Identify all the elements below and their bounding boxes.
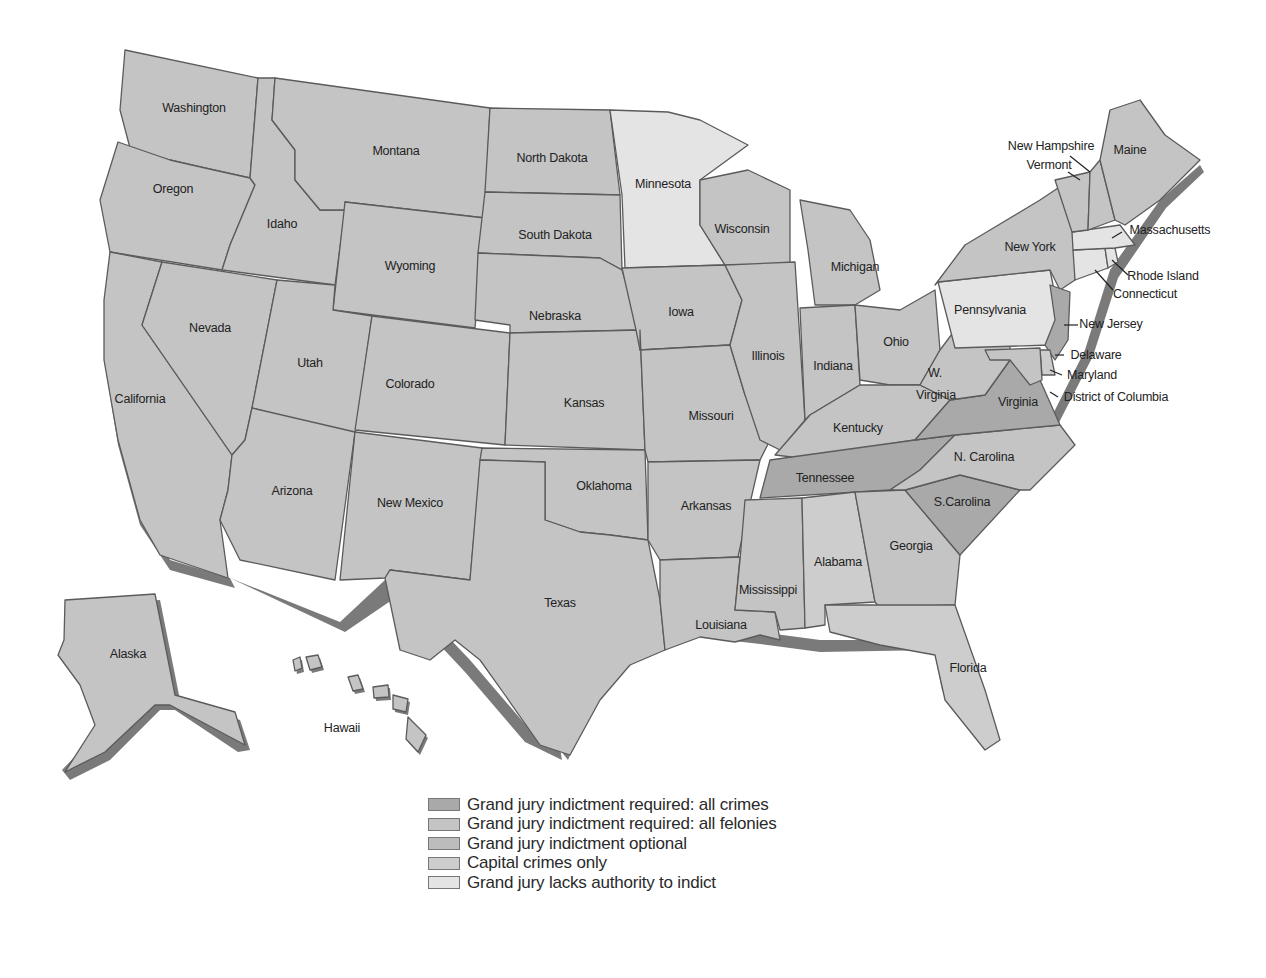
label-massachusetts: Massachusetts (1130, 223, 1211, 237)
legend-swatch (428, 798, 460, 811)
label-dc: District of Columbia (1064, 390, 1168, 404)
label-west-virginia-line2: Virginia (916, 388, 956, 402)
label-pennsylvania: Pennsylvania (954, 303, 1026, 317)
state-mississippi[interactable] (735, 498, 805, 630)
label-mississippi: Mississippi (739, 583, 797, 597)
label-north-dakota: North Dakota (516, 151, 587, 165)
legend-label: Grand jury indictment optional (467, 834, 687, 854)
state-maine[interactable] (1100, 100, 1200, 225)
legend-swatch (428, 818, 460, 831)
label-utah: Utah (297, 356, 323, 370)
label-hawaii: Hawaii (324, 721, 360, 735)
state-hawaii[interactable] (293, 655, 428, 755)
label-michigan: Michigan (831, 260, 879, 274)
label-arizona: Arizona (272, 484, 313, 498)
label-washington: Washington (162, 101, 226, 115)
legend-swatch (428, 837, 460, 850)
legend-label: Grand jury indictment required: all crim… (467, 795, 769, 815)
label-new-jersey: New Jersey (1079, 317, 1142, 331)
label-alabama: Alabama (814, 555, 862, 569)
label-tennessee: Tennessee (796, 471, 855, 485)
label-new-mexico: New Mexico (377, 496, 443, 510)
label-nebraska: Nebraska (529, 309, 581, 323)
label-georgia: Georgia (889, 539, 932, 553)
state-connecticut[interactable] (1073, 248, 1108, 280)
label-indiana: Indiana (813, 359, 853, 373)
state-new-york[interactable] (935, 180, 1075, 290)
label-colorado: Colorado (385, 377, 434, 391)
label-kentucky: Kentucky (833, 421, 883, 435)
legend-label: Grand jury indictment required: all felo… (467, 814, 777, 834)
label-kansas: Kansas (564, 396, 605, 410)
label-idaho: Idaho (267, 217, 297, 231)
legend-item-capital-only: Capital crimes only (428, 854, 777, 874)
legend-item-all-crimes: Grand jury indictment required: all crim… (428, 795, 777, 815)
label-california: California (115, 392, 166, 406)
label-florida: Florida (950, 661, 987, 675)
label-virginia: Virginia (998, 395, 1038, 409)
label-connecticut: Connecticut (1113, 287, 1177, 301)
state-florida[interactable] (825, 605, 1000, 750)
label-alaska: Alaska (110, 647, 146, 661)
label-montana: Montana (372, 144, 419, 158)
label-nevada: Nevada (189, 321, 231, 335)
label-texas: Texas (544, 596, 576, 610)
legend-item-optional: Grand jury indictment optional (428, 834, 777, 854)
legend-swatch (428, 857, 460, 870)
us-grand-jury-map: Washington Oregon California Idaho Nevad… (0, 0, 1266, 978)
label-ohio: Ohio (883, 335, 909, 349)
legend-swatch (428, 876, 460, 889)
label-wyoming: Wyoming (385, 259, 436, 273)
label-rhode-island: Rhode Island (1127, 269, 1198, 283)
legend-item-no-authority: Grand jury lacks authority to indict (428, 873, 777, 893)
label-missouri: Missouri (689, 409, 734, 423)
legend-item-all-felonies: Grand jury indictment required: all felo… (428, 815, 777, 835)
label-vermont: Vermont (1026, 158, 1071, 172)
state-kansas[interactable] (505, 330, 645, 450)
label-west-virginia-line1: W. (928, 366, 942, 380)
legend-label: Grand jury lacks authority to indict (467, 873, 716, 893)
label-new-york: New York (1004, 240, 1055, 254)
label-south-carolina: S.Carolina (934, 495, 990, 509)
legend: Grand jury indictment required: all crim… (428, 795, 777, 893)
label-maryland: Maryland (1067, 368, 1117, 382)
label-north-carolina: N. Carolina (954, 450, 1014, 464)
label-illinois: Illinois (751, 349, 784, 363)
label-oregon: Oregon (153, 182, 194, 196)
state-alaska[interactable] (58, 594, 245, 772)
label-new-hampshire: New Hampshire (1008, 139, 1094, 153)
label-wisconsin: Wisconsin (714, 222, 769, 236)
label-maine: Maine (1113, 143, 1146, 157)
label-minnesota: Minnesota (635, 177, 691, 191)
label-arkansas: Arkansas (681, 499, 732, 513)
label-louisiana: Louisiana (695, 618, 747, 632)
label-oklahoma: Oklahoma (576, 479, 631, 493)
label-iowa: Iowa (668, 305, 694, 319)
label-delaware: Delaware (1070, 348, 1121, 362)
state-michigan[interactable] (800, 200, 880, 305)
legend-label: Capital crimes only (467, 853, 607, 873)
label-south-dakota: South Dakota (518, 228, 591, 242)
